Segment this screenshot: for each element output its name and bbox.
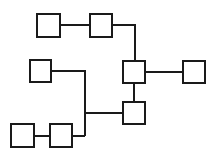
node-box-n8 [50, 124, 72, 147]
connector-n2-n3 [112, 25, 135, 61]
node-box-n7 [11, 124, 34, 147]
node-box-n3 [123, 61, 145, 83]
node-box-n4 [123, 102, 145, 124]
node-box-n1 [37, 14, 60, 37]
node-box-n6 [30, 60, 51, 82]
block-diagram [0, 0, 221, 157]
diagram-nodes [11, 14, 205, 147]
connector-lines [34, 25, 183, 136]
node-box-n5 [183, 61, 205, 83]
node-box-n2 [90, 14, 112, 37]
